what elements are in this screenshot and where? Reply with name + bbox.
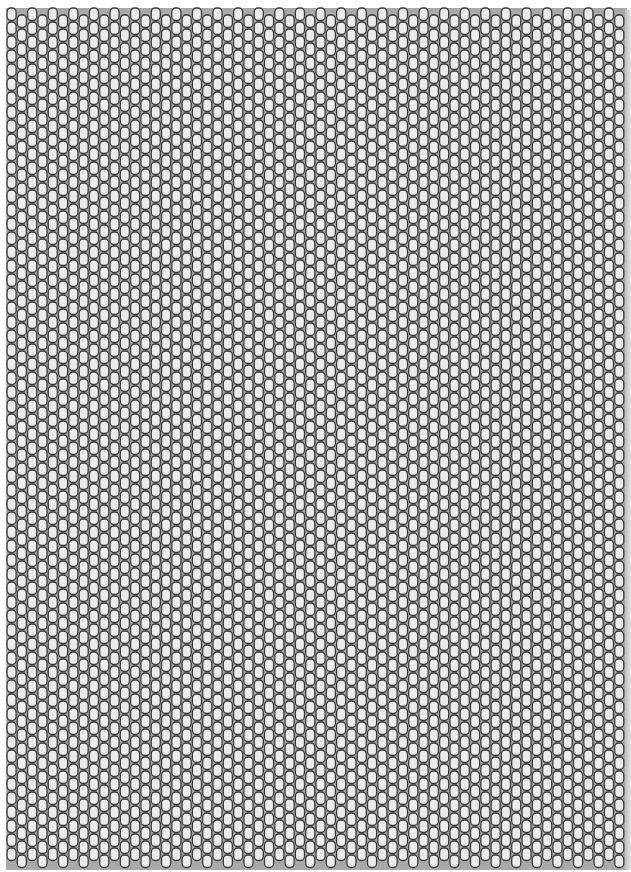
bead [28,526,37,539]
bead [79,379,88,392]
bead [429,113,438,126]
bead [512,561,521,574]
bead [584,652,593,665]
bead [460,414,469,427]
bead [532,659,541,672]
bead [574,99,583,112]
bead [244,99,253,112]
bead [172,414,181,427]
bead [244,771,253,784]
bead [172,64,181,77]
bead [89,428,98,441]
bead [347,785,356,798]
bead [543,316,552,329]
bead [38,57,47,70]
bead [471,547,480,560]
bead [234,470,243,483]
bead [388,589,397,602]
bead [89,526,98,539]
bead [151,540,160,553]
bead [48,106,57,119]
bead [604,750,613,763]
bead [409,533,418,546]
bead [223,113,232,126]
bead [120,183,129,196]
bead [48,176,57,189]
bead [254,736,263,749]
bead [234,316,243,329]
bead [89,274,98,287]
bead [574,449,583,462]
bead [28,260,37,273]
bead [172,204,181,217]
bead [17,743,26,756]
bead [162,827,171,840]
bead [388,421,397,434]
bead [244,169,253,182]
bead [38,99,47,112]
bead [501,834,510,847]
bead [615,379,624,392]
bead [471,43,480,56]
bead [120,757,129,770]
bead [234,582,243,595]
bead [223,575,232,588]
bead [17,785,26,798]
bead [275,232,284,245]
bead [337,162,346,175]
bead [120,575,129,588]
bead [7,414,16,427]
bead [563,274,572,287]
bead [100,85,109,98]
bead [110,8,119,21]
bead [471,393,480,406]
bead [48,750,57,763]
bead [59,197,68,210]
bead [584,260,593,273]
bead [563,652,572,665]
bead [17,701,26,714]
bead [543,708,552,721]
bead [481,638,490,651]
bead [440,512,449,525]
bead [162,841,171,854]
bead [450,365,459,378]
bead [162,743,171,756]
bead [213,722,222,735]
bead [419,428,428,441]
bead [368,365,377,378]
bead [17,617,26,630]
bead [512,15,521,28]
bead [337,78,346,91]
bead [398,134,407,147]
bead [532,729,541,742]
bead [28,778,37,791]
bead [522,764,531,777]
bead [501,764,510,777]
bead [28,134,37,147]
bead [409,29,418,42]
bead [553,85,562,98]
bead [182,687,191,700]
bead [553,589,562,602]
bead [460,442,469,455]
bead [141,757,150,770]
bead [275,176,284,189]
bead [100,463,109,476]
bead [615,757,624,770]
bead [265,799,274,812]
bead [28,162,37,175]
bead [388,449,397,462]
bead [69,820,78,833]
bead [337,50,346,63]
bead [59,575,68,588]
bead [419,512,428,525]
bead [7,582,16,595]
bead [326,477,335,490]
bead [409,491,418,504]
bead [347,407,356,420]
bead [378,596,387,609]
bead [398,190,407,203]
bead [182,113,191,126]
bead [182,841,191,854]
